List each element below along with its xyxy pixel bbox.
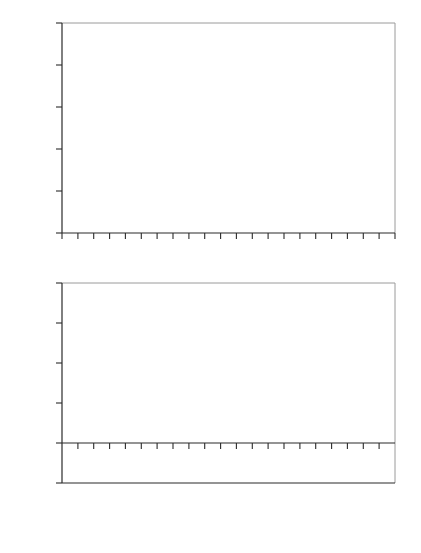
figure-page — [0, 0, 421, 553]
chart-real-interest-rate — [0, 268, 421, 553]
plot-area-background — [62, 23, 395, 233]
plot-area-background — [62, 283, 395, 483]
inflation-chart-svg — [0, 0, 421, 268]
y-axis-ticks — [56, 23, 62, 233]
chart-inflation-rate — [0, 0, 421, 268]
real-interest-chart-svg — [0, 268, 421, 553]
x-axis-ticks — [62, 233, 395, 239]
y-axis-ticks — [56, 283, 62, 483]
